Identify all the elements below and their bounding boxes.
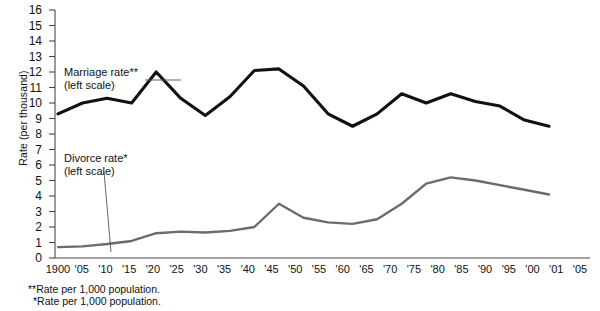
- footnote-marriage-marker: **: [28, 283, 36, 295]
- annotation-marriage-label: Marriage rate**: [64, 66, 138, 79]
- annotation-divorce-sublabel: (left scale): [64, 165, 128, 178]
- footnote-divorce: *Rate per 1,000 population.: [33, 295, 161, 307]
- divorce-leader-line: [104, 172, 111, 252]
- annotation-marriage: Marriage rate** (left scale): [64, 66, 138, 92]
- annotation-divorce: Divorce rate* (left scale): [64, 152, 128, 178]
- footnote-divorce-text: Rate per 1,000 population.: [37, 295, 161, 307]
- footnote-marriage: **Rate per 1,000 population.: [28, 283, 160, 295]
- footnote-marriage-text: Rate per 1,000 population.: [36, 283, 160, 295]
- annotation-marriage-sublabel: (left scale): [64, 79, 138, 92]
- series-line-divorce-rate: [58, 177, 549, 247]
- annotation-divorce-label: Divorce rate*: [64, 152, 128, 165]
- chart-container: Rate (per thousand) 01234567891011121314…: [0, 0, 600, 311]
- y-axis-tick-marks: [49, 10, 55, 258]
- series-group: [58, 69, 549, 247]
